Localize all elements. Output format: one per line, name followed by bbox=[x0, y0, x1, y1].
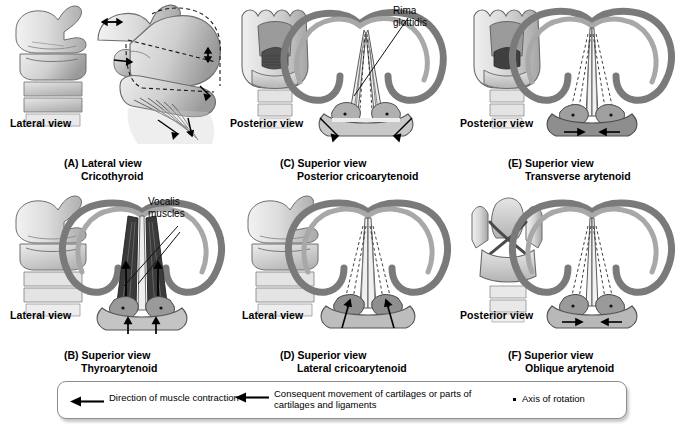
panel-d-caption-line2: Lateral cricoarytenoid bbox=[280, 362, 407, 375]
rima-glottidis-label-line1: Rima bbox=[393, 5, 416, 16]
thumbnail-lateral-larynx bbox=[16, 6, 86, 126]
panel-e-thumbnail-view-label: Posterior view bbox=[460, 118, 533, 129]
panel-a-caption: (A) Lateral view Cricothyroid bbox=[64, 157, 143, 182]
axis-of-rotation-dot bbox=[571, 113, 574, 116]
panel-e-caption-line2: Transverse arytenoid bbox=[508, 170, 631, 183]
main-superior-larynx-oblique-arytenoid bbox=[512, 203, 671, 328]
main-lateral-larynx bbox=[98, 5, 220, 144]
legend-label-muscle-contraction: Direction of muscle contraction bbox=[109, 392, 239, 403]
panel-a: Lateral view (A) Lateral view Cricothyro… bbox=[2, 0, 230, 190]
thumbnail-posterior-larynx-oblique bbox=[472, 198, 542, 322]
legend-label-consequent-movement: Consequent movement of cartilages or par… bbox=[274, 388, 472, 410]
panel-c-caption-line2: Posterior cricoarytenoid bbox=[280, 170, 418, 183]
panel-b-thumbnail-view-label: Lateral view bbox=[10, 310, 71, 321]
panel-d: Lateral view (D) Superior view Lateral c… bbox=[228, 192, 456, 382]
axis-of-rotation-dot bbox=[609, 304, 612, 307]
panel-e-caption-line1: (E) Superior view bbox=[508, 157, 594, 169]
panel-c-caption: (C) Superior view Posterior cricoaryteno… bbox=[280, 157, 418, 182]
main-superior-larynx-thyroarytenoid bbox=[62, 203, 221, 334]
vocalis-label-line2: muscles bbox=[148, 208, 185, 219]
panel-c: Rima glottidis Posterior view (C) Superi… bbox=[228, 0, 456, 190]
panel-f-thumbnail-view-label: Posterior view bbox=[460, 310, 533, 321]
panel-e-caption: (E) Superior view Transverse arytenoid bbox=[508, 157, 631, 182]
panel-e: Posterior view (E) Superior view Transve… bbox=[452, 0, 680, 190]
dot-icon bbox=[510, 394, 518, 405]
axis-of-rotation-dot bbox=[121, 306, 124, 309]
panel-b-caption: (B) Superior view Thyroarytenoid bbox=[64, 349, 157, 374]
legend-label-axis-of-rotation: Axis of rotation bbox=[522, 393, 585, 404]
panel-f-caption: (F) Superior view Oblique arytenoid bbox=[508, 349, 614, 374]
axis-of-rotation-dot bbox=[609, 113, 612, 116]
panel-d-caption: (D) Superior view Lateral cricoarytenoid bbox=[280, 349, 407, 374]
axis-of-rotation-dot bbox=[343, 112, 346, 115]
left-arrow-icon bbox=[70, 393, 104, 404]
panel-c-caption-line1: (C) Superior view bbox=[280, 157, 366, 169]
rima-glottidis-annotation: Rima glottidis bbox=[393, 5, 427, 28]
panel-d-thumbnail-view-label: Lateral view bbox=[242, 310, 303, 321]
legend-box: Direction of muscle contraction Conseque… bbox=[57, 381, 627, 419]
panel-f: Posterior view (F) Superior view Oblique… bbox=[452, 192, 680, 382]
panel-b-caption-line2: Thyroarytenoid bbox=[64, 362, 157, 375]
panel-f-caption-line2: Oblique arytenoid bbox=[508, 362, 614, 375]
legend-item-axis-of-rotation: Axis of rotation bbox=[510, 393, 585, 405]
panel-f-caption-line1: (F) Superior view bbox=[508, 349, 593, 361]
panel-a-thumbnail-view-label: Lateral view bbox=[10, 118, 71, 129]
left-arrow-icon bbox=[235, 389, 269, 400]
panel-d-caption-line1: (D) Superior view bbox=[280, 349, 366, 361]
axis-of-rotation-dot bbox=[571, 304, 574, 307]
panel-b-caption-line1: (B) Superior view bbox=[64, 349, 150, 361]
panel-a-caption-line2: Cricothyroid bbox=[64, 170, 143, 183]
legend-item-muscle-contraction: Direction of muscle contraction bbox=[70, 392, 239, 404]
main-superior-larynx-abducted bbox=[284, 12, 443, 141]
axis-of-rotation-dot bbox=[385, 112, 388, 115]
vocalis-label-line1: Vocalis bbox=[148, 196, 180, 207]
panel-c-thumbnail-view-label: Posterior view bbox=[230, 118, 303, 129]
vocalis-muscles-annotation: Vocalis muscles bbox=[148, 196, 185, 219]
rima-glottidis-label-line2: glottidis bbox=[393, 17, 427, 28]
panel-b: Vocalis muscles Lateral view (B) Superio… bbox=[2, 192, 230, 382]
panel-a-caption-line1: (A) Lateral view bbox=[64, 157, 142, 169]
legend-item-consequent-movement: Consequent movement of cartilages or par… bbox=[235, 388, 472, 410]
axis-of-rotation-dot bbox=[159, 306, 162, 309]
larynx-muscle-figure: Lateral view (A) Lateral view Cricothyro… bbox=[0, 0, 685, 431]
